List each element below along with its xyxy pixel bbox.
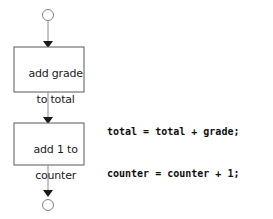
flowchart-canvas: add grade to total add 1 to counter tota… <box>0 0 273 219</box>
process-box-add-grade-label-line1: add grade <box>28 67 82 80</box>
code-annotation-line-2: counter = counter + 1; <box>107 167 239 181</box>
code-annotation-line-1: total = total + grade; <box>107 125 239 139</box>
process-box-add-counter-label: add 1 to counter <box>14 130 84 195</box>
end-terminator-circle <box>43 200 54 211</box>
process-box-add-grade-label: add grade to total <box>14 54 84 119</box>
process-box-add-counter-label-line2: counter <box>35 169 76 182</box>
process-box-add-grade-label-line2: to total <box>37 93 75 106</box>
start-terminator-circle <box>43 10 54 21</box>
code-annotation: total = total + grade; counter = counter… <box>107 97 239 209</box>
process-box-add-counter-label-line1: add 1 to <box>34 143 78 156</box>
